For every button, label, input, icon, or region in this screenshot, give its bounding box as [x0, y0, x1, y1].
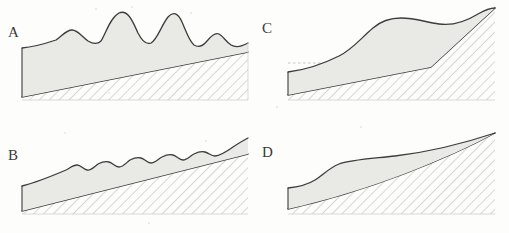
panel-label-a: A: [8, 24, 19, 41]
panel-label-d: D: [262, 144, 273, 161]
panel-c: C: [249, 0, 509, 118]
panel-d-diagram: [249, 118, 509, 233]
paper-speck: [190, 12, 192, 14]
paper-speck: [205, 140, 207, 142]
paper-speck: [397, 196, 399, 198]
panel-c-diagram: [249, 0, 509, 118]
paper-speck: [276, 106, 278, 108]
figure-cross-sections: A C: [0, 0, 509, 233]
panel-label-c: C: [262, 20, 273, 37]
paper-speck: [131, 6, 133, 8]
panel-b-diagram: [0, 118, 260, 233]
paper-speck: [95, 8, 97, 10]
paper-speck: [108, 92, 110, 94]
panel-d: D: [249, 118, 509, 233]
panel-a: A: [0, 0, 260, 118]
panel-a-diagram: [0, 0, 260, 118]
paper-speck: [64, 132, 66, 134]
paper-speck: [148, 222, 150, 224]
paper-speck: [360, 126, 362, 128]
panel-label-b: B: [8, 147, 19, 164]
panel-b: B: [0, 118, 260, 233]
